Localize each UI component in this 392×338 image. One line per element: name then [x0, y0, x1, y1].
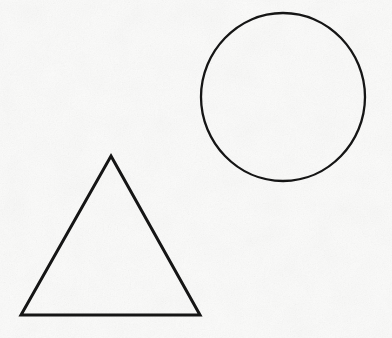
circle-shape	[201, 13, 365, 181]
triangle-shape	[21, 156, 200, 315]
shape-layer	[0, 0, 392, 338]
drawing-canvas	[0, 0, 392, 338]
